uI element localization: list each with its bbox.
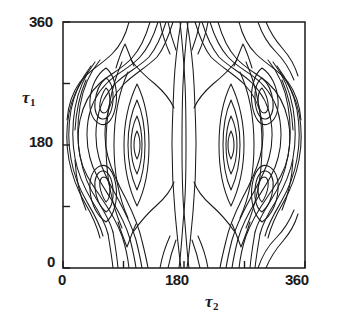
contour-bottom-plunge-right-2 xyxy=(255,234,260,268)
x-axis-title-subscript: 2 xyxy=(213,300,219,312)
x-tick-label-360: 360 xyxy=(285,271,309,288)
contour-saddle-bottom-left xyxy=(134,182,174,231)
contour-ridge-right-a xyxy=(187,22,196,268)
contour-level-4 xyxy=(105,22,173,268)
contour-level-1b xyxy=(67,22,129,120)
contour-bottom-crossing-d xyxy=(192,240,200,268)
plot-frame xyxy=(63,22,305,268)
x-axis-title: τ2 xyxy=(205,292,219,312)
contour-figure: 360 180 0 0 180 360 τ1 τ2 xyxy=(0,0,339,319)
contour-level-4-mirror xyxy=(195,22,263,268)
y-axis-title: τ1 xyxy=(22,88,36,108)
y-tick-label-360: 360 xyxy=(29,13,53,30)
x-tick-label-180: 180 xyxy=(165,271,189,288)
contour-lines xyxy=(67,22,302,268)
contour-bottom-plunge-right xyxy=(250,232,255,268)
y-axis-title-symbol: τ xyxy=(22,88,30,107)
contour-level-1b-mirror xyxy=(239,22,301,120)
contour-saddle-bottom-right xyxy=(194,182,234,231)
contour-bottom-plunge-left-2 xyxy=(108,234,113,268)
x-axis-title-symbol: τ xyxy=(205,292,213,311)
y-tick-label-0: 0 xyxy=(47,253,55,270)
contour-bottom-plunge-left xyxy=(113,232,118,268)
y-tick-label-180: 180 xyxy=(29,133,53,150)
x-tick-label-0: 0 xyxy=(58,271,66,288)
contour-lobe-ur-ring-3 xyxy=(258,88,268,113)
y-axis-title-subscript: 1 xyxy=(30,96,36,108)
contour-botright-crowd-a xyxy=(258,210,294,268)
contour-bottom-crossing-b xyxy=(168,240,176,268)
contour-lobe-ur-ring-1 xyxy=(251,68,278,125)
contour-ridge-left-a xyxy=(172,22,181,268)
contour-basin-right-ring-4 xyxy=(228,131,234,159)
contour-lobe-ul-ring-1 xyxy=(90,68,117,125)
contour-lobe-ul-ring-3 xyxy=(100,88,110,113)
contour-basin-left-ring-4 xyxy=(134,131,140,159)
contour-topright-crowd-b xyxy=(266,22,298,76)
